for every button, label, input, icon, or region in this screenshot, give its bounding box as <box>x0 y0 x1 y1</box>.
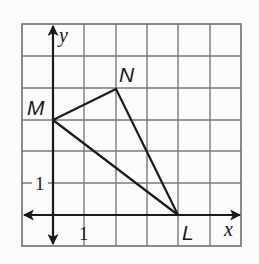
grid-frame <box>22 24 241 246</box>
y-axis-label: y <box>57 24 68 47</box>
y-tick-label-1: 1 <box>35 173 45 194</box>
vertex-label-M: M <box>27 96 45 119</box>
vertex-label-L: L <box>182 221 194 244</box>
x-tick-label-1: 1 <box>79 223 89 244</box>
vertex-label-N: N <box>119 63 135 86</box>
x-axis-label: x <box>223 218 233 240</box>
coordinate-plane: y x 1 1 M N L <box>0 0 259 264</box>
grid <box>22 24 241 246</box>
